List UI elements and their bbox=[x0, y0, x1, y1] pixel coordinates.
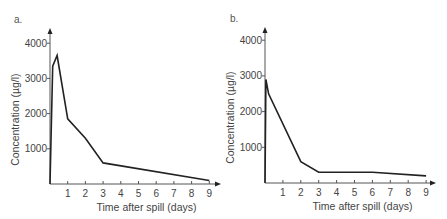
y-tick-label: 1000 bbox=[25, 143, 48, 154]
concentration-line bbox=[50, 56, 209, 185]
figure: a.1000200030004000123456789Time after sp… bbox=[0, 0, 447, 219]
x-tick-label: 3 bbox=[316, 187, 322, 198]
x-tick-label: 8 bbox=[189, 188, 195, 199]
y-tick-label: 2000 bbox=[240, 106, 263, 117]
x-tick-label: 4 bbox=[118, 188, 124, 199]
y-tick-label: 1000 bbox=[240, 142, 263, 153]
x-tick-label: 2 bbox=[298, 187, 304, 198]
y-axis-title: Concentration (µg/l) bbox=[9, 73, 21, 165]
y-axis-title: Concentration (µg/l) bbox=[224, 71, 236, 163]
x-tick-label: 5 bbox=[352, 187, 358, 198]
x-axis-arrow-icon bbox=[430, 181, 436, 186]
y-tick-label: 3000 bbox=[25, 73, 48, 84]
x-axis-title: Time after spill (days) bbox=[313, 200, 413, 212]
x-tick-label: 6 bbox=[370, 187, 376, 198]
panel-label: b. bbox=[230, 13, 238, 24]
y-axis-arrow-icon bbox=[263, 27, 268, 33]
x-tick-label: 7 bbox=[171, 188, 177, 199]
x-axis-arrow-icon bbox=[215, 182, 221, 187]
x-tick-label: 1 bbox=[65, 188, 71, 199]
x-tick-label: 6 bbox=[153, 188, 159, 199]
panel-label: a. bbox=[14, 14, 22, 25]
x-tick-label: 3 bbox=[100, 188, 106, 199]
y-tick-label: 2000 bbox=[25, 108, 48, 119]
y-tick-label: 3000 bbox=[240, 70, 263, 81]
y-axis-arrow-icon bbox=[48, 28, 53, 34]
x-tick-label: 1 bbox=[280, 187, 286, 198]
y-tick-label: 4000 bbox=[25, 38, 48, 49]
x-tick-label: 5 bbox=[136, 188, 142, 199]
x-tick-label: 4 bbox=[334, 187, 340, 198]
x-tick-label: 2 bbox=[83, 188, 89, 199]
x-tick-label: 7 bbox=[388, 187, 394, 198]
x-axis-title: Time after spill (days) bbox=[97, 201, 197, 213]
x-tick-label: 9 bbox=[207, 188, 213, 199]
y-tick-label: 4000 bbox=[240, 35, 263, 46]
line-charts: a.1000200030004000123456789Time after sp… bbox=[0, 0, 447, 219]
x-tick-label: 9 bbox=[423, 187, 429, 198]
x-tick-label: 8 bbox=[405, 187, 411, 198]
concentration-line bbox=[265, 80, 426, 184]
